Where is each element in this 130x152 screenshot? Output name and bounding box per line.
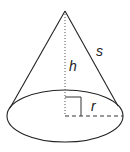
- cone-diagram: h s r: [0, 0, 130, 152]
- slant-height-label: s: [96, 43, 103, 59]
- right-angle-marker: [65, 97, 81, 116]
- height-label: h: [69, 58, 77, 74]
- radius-label: r: [91, 98, 97, 114]
